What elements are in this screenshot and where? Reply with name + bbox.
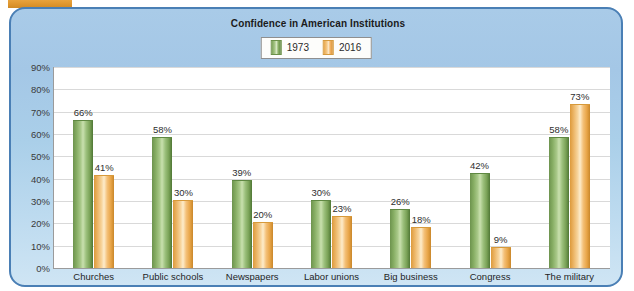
chart-legend: 1973 2016 <box>261 37 372 59</box>
y-axis-tick-label: 80% <box>14 84 50 95</box>
bar[interactable]: 58% <box>549 137 569 268</box>
bar[interactable]: 42% <box>470 173 490 268</box>
bar[interactable]: 18% <box>411 227 431 268</box>
bar-series-2016[interactable]: 18% <box>411 227 431 268</box>
bar-group: 42%9% <box>450 67 529 268</box>
bar[interactable]: 66% <box>73 120 93 268</box>
x-axis-category-label: Newspapers <box>213 271 292 282</box>
y-axis-tick-label: 70% <box>14 106 50 117</box>
y-axis-tick-label: 40% <box>14 173 50 184</box>
bar-series-2016[interactable]: 23% <box>332 216 352 268</box>
bar[interactable]: 30% <box>311 200 331 268</box>
bar-series-2016[interactable]: 30% <box>173 200 193 268</box>
bar-value-label: 18% <box>412 214 431 225</box>
bar-series-2016[interactable]: 20% <box>253 222 273 268</box>
y-axis-tick-label: 60% <box>14 129 50 140</box>
y-axis-tick-label: 20% <box>14 218 50 229</box>
bar-series-1973[interactable]: 66% <box>73 120 93 268</box>
page-title: Confidence in American Institutions <box>11 18 623 29</box>
y-axis-tick-label: 10% <box>14 240 50 251</box>
legend-swatch-icon-2016 <box>323 40 334 55</box>
bar-group: 39%20% <box>213 67 292 268</box>
bar-group: 66%41% <box>54 67 133 268</box>
bar[interactable]: 41% <box>94 175 114 268</box>
bar-group: 26%18% <box>371 67 450 268</box>
bar-series-2016[interactable]: 73% <box>570 104 590 268</box>
x-axis-category-label: Congress <box>450 271 529 282</box>
bar-value-label: 58% <box>549 124 568 135</box>
bar-group: 30%23% <box>292 67 371 268</box>
bar[interactable]: 20% <box>253 222 273 268</box>
legend-swatch-icon-1973 <box>271 40 282 55</box>
bar-value-label: 42% <box>470 160 489 171</box>
legend-entry-1973: 1973 <box>271 40 309 55</box>
x-axis-category-label: Churches <box>54 271 133 282</box>
legend-entry-2016: 2016 <box>323 40 361 55</box>
legend-label-2016: 2016 <box>339 42 361 53</box>
bar-value-label: 30% <box>174 187 193 198</box>
bar-value-label: 73% <box>570 91 589 102</box>
bar[interactable]: 26% <box>390 209 410 268</box>
x-axis: ChurchesPublic schoolsNewspapersLabor un… <box>54 271 609 287</box>
bar-value-label: 41% <box>95 162 114 173</box>
bar-groups: 66%41%58%30%39%20%30%23%26%18%42%9%58%73… <box>54 67 609 268</box>
bar-value-label: 26% <box>391 196 410 207</box>
bar-value-label: 39% <box>232 167 251 178</box>
bar[interactable]: 58% <box>152 137 172 268</box>
bar-series-1973[interactable]: 58% <box>549 137 569 268</box>
bar[interactable]: 23% <box>332 216 352 268</box>
bar-value-label: 9% <box>494 234 508 245</box>
bar-series-1973[interactable]: 42% <box>470 173 490 268</box>
bar-series-2016[interactable]: 9% <box>491 247 511 268</box>
bar[interactable]: 9% <box>491 247 511 268</box>
bar-series-1973[interactable]: 30% <box>311 200 331 268</box>
bar-value-label: 66% <box>74 107 93 118</box>
y-axis-tick-label: 0% <box>14 263 50 274</box>
x-axis-category-label: Labor unions <box>292 271 371 282</box>
legend-label-1973: 1973 <box>287 42 309 53</box>
bar-series-2016[interactable]: 41% <box>94 175 114 268</box>
bar-group: 58%30% <box>133 67 212 268</box>
bar-series-1973[interactable]: 26% <box>390 209 410 268</box>
bar-value-label: 58% <box>153 124 172 135</box>
bar-value-label: 30% <box>311 187 330 198</box>
chart-panel: Confidence in American Institutions 1973… <box>9 7 623 287</box>
bar-value-label: 23% <box>332 203 351 214</box>
bar[interactable]: 73% <box>570 104 590 268</box>
bar[interactable]: 30% <box>173 200 193 268</box>
bar-value-label: 20% <box>253 209 272 220</box>
y-axis-tick-label: 30% <box>14 196 50 207</box>
y-axis-tick-label: 90% <box>14 62 50 73</box>
y-axis: 90%80%70%60%50%40%30%20%10%0% <box>11 67 50 269</box>
x-axis-category-label: The military <box>530 271 609 282</box>
y-axis-tick-label: 50% <box>14 151 50 162</box>
x-axis-category-label: Big business <box>371 271 450 282</box>
bar-series-1973[interactable]: 58% <box>152 137 172 268</box>
bar[interactable]: 39% <box>232 180 252 268</box>
bar-group: 58%73% <box>530 67 609 268</box>
bar-series-1973[interactable]: 39% <box>232 180 252 268</box>
x-axis-category-label: Public schools <box>133 271 212 282</box>
